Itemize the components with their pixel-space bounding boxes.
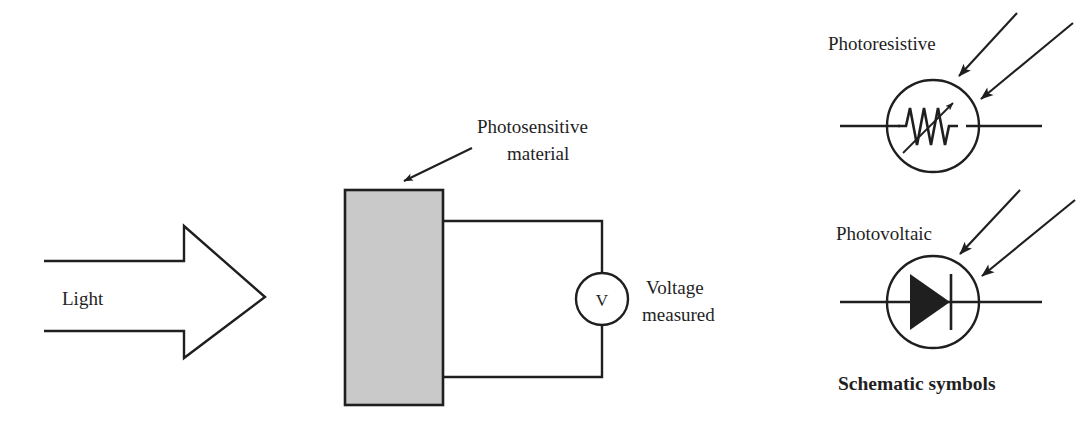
photoresistive-label: Photoresistive <box>828 33 936 54</box>
voltmeter-symbol: V <box>596 291 609 310</box>
resistor-zigzag-icon <box>898 108 958 145</box>
circuit-wire-bottom <box>443 325 602 377</box>
photosensitive-material-label-line2: material <box>507 143 569 164</box>
diode-triangle-icon <box>910 274 950 330</box>
circuit-wire-top <box>443 221 602 273</box>
light-arrow-group: Light <box>44 226 265 358</box>
photosensitive-material-block <box>345 190 443 405</box>
photosensitive-callout-arrow-icon <box>404 148 472 181</box>
photovoltaic-symbol-group: Photovoltaic Schematic symbols <box>836 190 1075 394</box>
photosensitive-material-group: Photosensitive material <box>345 116 588 405</box>
photovoltaic-label: Photovoltaic <box>836 223 932 244</box>
diagram-canvas: Light Photosensitive material V Voltage … <box>0 0 1087 428</box>
photoresistive-light-arrow-1-icon <box>959 13 1017 76</box>
photovoltaic-light-arrow-1-icon <box>960 190 1020 254</box>
photoresistive-light-arrow-2-icon <box>981 23 1073 99</box>
voltage-measured-label-line1: Voltage <box>646 277 704 298</box>
schematic-symbols-caption: Schematic symbols <box>838 373 996 394</box>
light-label: Light <box>62 288 104 309</box>
measurement-circuit-group: V Voltage measured <box>443 221 715 377</box>
voltage-measured-label-line2: measured <box>642 304 715 325</box>
photosensitive-material-label-line1: Photosensitive <box>477 116 588 137</box>
photodetector-diagram: Light Photosensitive material V Voltage … <box>0 0 1087 428</box>
photoresistive-symbol-group: Photoresistive <box>828 13 1073 172</box>
photovoltaic-light-arrow-2-icon <box>982 200 1075 276</box>
